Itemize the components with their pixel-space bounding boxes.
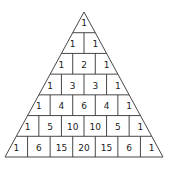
cell-value: 15 [101, 143, 112, 153]
cell-value: 1 [81, 18, 87, 28]
cell-value: 1 [25, 122, 31, 132]
cell-value: 3 [70, 81, 76, 91]
cell-value: 10 [67, 122, 79, 132]
cell-value: 1 [149, 143, 155, 153]
cell-value: 3 [92, 81, 98, 91]
cell-value: 1 [70, 39, 76, 49]
cell-value: 6 [81, 101, 87, 111]
cell-value: 1 [36, 101, 42, 111]
cell-value: 1 [47, 81, 53, 91]
pascal-triangle: 111121133114641151010511615201561 [0, 0, 169, 171]
cell-value: 4 [59, 101, 65, 111]
cell-value: 10 [90, 122, 102, 132]
cell-value: 2 [81, 60, 87, 70]
cell-value: 5 [115, 122, 121, 132]
cell-value: 1 [138, 122, 144, 132]
cell-value: 1 [115, 81, 121, 91]
cell-value: 15 [56, 143, 67, 153]
cell-value: 6 [126, 143, 132, 153]
cell-value: 4 [104, 101, 110, 111]
cell-value: 5 [47, 122, 53, 132]
cell-value: 6 [36, 143, 42, 153]
cell-value: 1 [126, 101, 132, 111]
cell-value: 1 [92, 39, 98, 49]
cell-value: 1 [13, 143, 19, 153]
cell-value: 1 [59, 60, 65, 70]
cell-value: 1 [104, 60, 110, 70]
cell-value: 20 [78, 143, 90, 153]
